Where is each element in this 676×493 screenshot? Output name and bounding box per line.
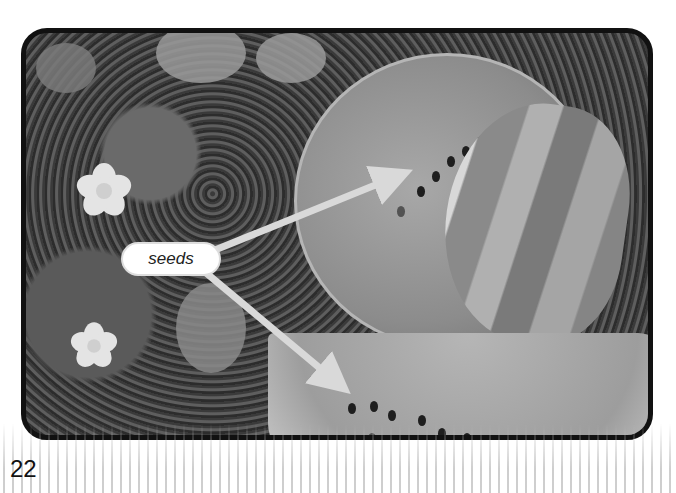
arrow-to-slice-seeds [205, 272, 340, 385]
seeds-label: seeds [123, 244, 219, 274]
arrow-to-half-seeds [215, 175, 400, 250]
arrows [0, 0, 676, 493]
grass-decoration [0, 423, 676, 493]
page-number: 22 [10, 455, 37, 483]
